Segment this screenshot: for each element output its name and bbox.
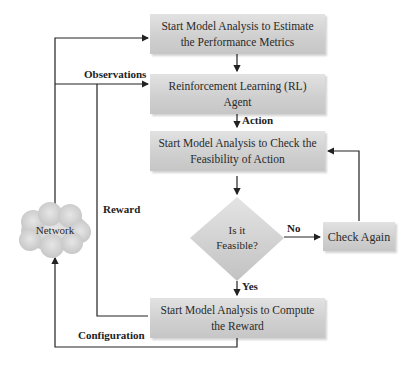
check-again-box: Check Again <box>323 222 395 251</box>
rl-agent-label: Reinforcement Learning (RL) Agent <box>154 78 321 110</box>
rl-agent-box: Reinforcement Learning (RL) Agent <box>150 74 325 114</box>
edge-label-observations: Observations <box>84 68 146 80</box>
edge-label-action: Action <box>242 114 273 126</box>
decision-line2: Feasible? <box>197 238 277 253</box>
compute-reward-label: Start Model Analysis to Compute the Rewa… <box>154 302 321 334</box>
edge-label-yes: Yes <box>242 280 258 292</box>
feasibility-label: Start Model Analysis to Check the Feasib… <box>154 135 321 167</box>
network-label: Network <box>20 223 90 238</box>
edge-label-configuration: Configuration <box>78 329 145 341</box>
compute-reward-box: Start Model Analysis to Compute the Rewa… <box>150 298 325 338</box>
decision-text: Is it Feasible? <box>197 223 277 253</box>
edge-label-no: No <box>287 222 300 234</box>
check-again-label: Check Again <box>328 229 390 245</box>
feasibility-box: Start Model Analysis to Check the Feasib… <box>150 131 325 171</box>
edge-label-reward: Reward <box>103 203 140 215</box>
estimate-metrics-box: Start Model Analysis to Estimate the Per… <box>150 14 325 54</box>
estimate-metrics-label: Start Model Analysis to Estimate the Per… <box>154 18 321 50</box>
decision-line1: Is it <box>197 223 277 238</box>
